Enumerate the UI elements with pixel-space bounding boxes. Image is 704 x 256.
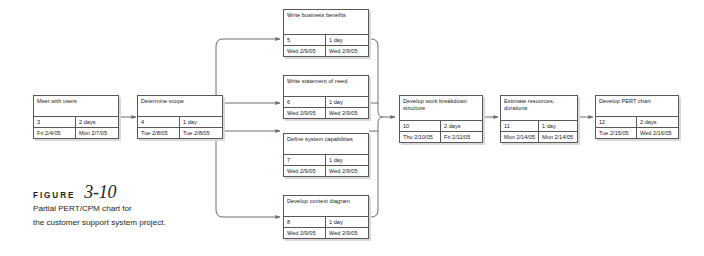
task-name: Define system capabilities [284, 134, 368, 155]
task-duration: 1 day [539, 121, 577, 131]
fanout-trunk-upper [216, 39, 280, 111]
task-id-duration-row: 8 1 day [284, 217, 368, 228]
task-start-date: Mon 2/14/05 [501, 132, 539, 142]
task-name: Determine scope [138, 96, 222, 117]
task-duration: 2 days [441, 121, 482, 131]
edge-benefits-to-merge [369, 39, 378, 111]
merge-trunk [378, 111, 383, 123]
task-dates-row: Thu 2/10/05 Fri 2/11/05 [400, 132, 482, 142]
task-finish-date: Wed 2/9/05 [326, 228, 368, 238]
task-dates-row: Fri 2/4/05 Mon 2/7/05 [34, 128, 118, 138]
task-node-define-system-capabilities[interactable]: Define system capabilities 7 1 day Wed 2… [283, 133, 369, 177]
task-start-date: Wed 2/9/05 [284, 108, 326, 118]
task-node-develop-work-breakdown-structure[interactable]: Develop work breakdown structure 10 2 da… [399, 95, 483, 143]
task-duration: 2 days [637, 117, 678, 127]
task-node-develop-pert-chart[interactable]: Develop PERT chart 12 2 days Tue 2/15/05… [595, 95, 679, 139]
task-start-date: Wed 2/9/05 [284, 166, 326, 176]
task-dates-row: Wed 2/9/05 Wed 2/9/05 [284, 108, 368, 118]
task-name: Estimate resources, durations [501, 96, 577, 121]
task-id-duration-row: 10 2 days [400, 121, 482, 132]
task-id: 6 [284, 97, 326, 107]
task-id-duration-row: 11 1 day [501, 121, 577, 132]
task-start-date: Tue 2/15/05 [596, 128, 637, 138]
task-id: 4 [138, 117, 180, 127]
figure-number: 3-10 [84, 182, 116, 203]
task-finish-date: Mon 2/14/05 [539, 132, 577, 142]
task-id-duration-row: 3 2 days [34, 117, 118, 128]
task-duration: 1 day [180, 117, 222, 127]
task-finish-date: Wed 2/9/05 [326, 46, 368, 56]
task-node-meet-with-users[interactable]: Meet with users 3 2 days Fri 2/4/05 Mon … [33, 95, 119, 139]
task-duration: 2 days [76, 117, 118, 127]
task-name: Develop work breakdown structure [400, 96, 482, 121]
task-id: 11 [501, 121, 539, 131]
task-name: Develop PERT chart [596, 96, 678, 117]
figure-canvas: Meet with users 3 2 days Fri 2/4/05 Mon … [0, 0, 704, 256]
task-finish-date: Fri 2/11/05 [441, 132, 482, 142]
task-id-duration-row: 12 2 days [596, 117, 678, 128]
task-duration: 1 day [326, 217, 368, 227]
task-id-duration-row: 6 1 day [284, 97, 368, 108]
task-name: Write business benefits [284, 10, 368, 35]
task-id: 12 [596, 117, 637, 127]
task-node-estimate-resources-durations[interactable]: Estimate resources, durations 11 1 day M… [500, 95, 578, 143]
task-id-duration-row: 4 1 day [138, 117, 222, 128]
task-dates-row: Tue 2/8/05 Tue 2/8/05 [138, 128, 222, 138]
task-start-date: Thu 2/10/05 [400, 132, 441, 142]
task-finish-date: Wed 2/9/05 [326, 166, 368, 176]
task-finish-date: Tue 2/8/05 [180, 128, 222, 138]
task-id: 7 [284, 155, 326, 165]
task-node-write-statement-of-need[interactable]: Write statement of need 6 1 day Wed 2/9/… [283, 75, 369, 119]
figure-caption-line-2: the customer support system project. [33, 216, 263, 230]
task-id: 5 [284, 35, 326, 45]
task-finish-date: Wed 2/9/05 [326, 108, 368, 118]
task-dates-row: Mon 2/14/05 Mon 2/14/05 [501, 132, 577, 142]
task-dates-row: Wed 2/9/05 Wed 2/9/05 [284, 166, 368, 176]
figure-caption-heading: FIGURE 3-10 [33, 182, 263, 202]
task-start-date: Wed 2/9/05 [284, 46, 326, 56]
task-node-determine-scope[interactable]: Determine scope 4 1 day Tue 2/8/05 Tue 2… [137, 95, 223, 139]
task-start-date: Fri 2/4/05 [34, 128, 76, 138]
task-finish-date: Wed 2/16/05 [637, 128, 678, 138]
figure-caption: FIGURE 3-10 Partial PERT/CPM chart for t… [33, 182, 263, 229]
task-id-duration-row: 5 1 day [284, 35, 368, 46]
figure-caption-line-1: Partial PERT/CPM chart for [33, 202, 263, 216]
task-id: 8 [284, 217, 326, 227]
figure-label: FIGURE [33, 191, 75, 200]
task-duration: 1 day [326, 35, 368, 45]
task-node-develop-context-diagram[interactable]: Develop context diagram 8 1 day Wed 2/9/… [283, 195, 369, 239]
task-duration: 1 day [326, 155, 368, 165]
task-dates-row: Tue 2/15/05 Wed 2/16/05 [596, 128, 678, 138]
task-dates-row: Wed 2/9/05 Wed 2/9/05 [284, 46, 368, 56]
task-dates-row: Wed 2/9/05 Wed 2/9/05 [284, 228, 368, 238]
task-start-date: Wed 2/9/05 [284, 228, 326, 238]
task-start-date: Tue 2/8/05 [138, 128, 180, 138]
task-id: 3 [34, 117, 76, 127]
task-id-duration-row: 7 1 day [284, 155, 368, 166]
task-name: Write statement of need [284, 76, 368, 97]
edge-context-to-merge [369, 123, 378, 217]
task-name: Meet with users [34, 96, 118, 117]
task-name: Develop context diagram [284, 196, 368, 217]
task-finish-date: Mon 2/7/05 [76, 128, 118, 138]
task-duration: 1 day [326, 97, 368, 107]
task-id: 10 [400, 121, 441, 131]
task-node-write-business-benefits[interactable]: Write business benefits 5 1 day Wed 2/9/… [283, 9, 369, 57]
